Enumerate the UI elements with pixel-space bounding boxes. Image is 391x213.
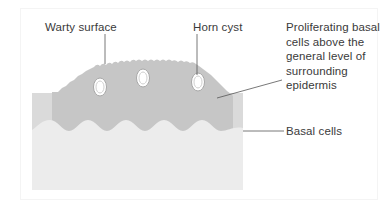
horn-cyst-2: [137, 69, 150, 87]
horn-cyst-3: [192, 73, 205, 91]
label-proliferating-basal-cells: Proliferating basal cells above the gene…: [286, 20, 380, 93]
dermis: [32, 120, 243, 190]
label-basal-cells: Basal cells: [286, 124, 342, 138]
label-warty-surface: Warty surface: [45, 20, 117, 34]
label-horn-cyst: Horn cyst: [193, 20, 242, 34]
leader-proliferating: [217, 80, 282, 98]
horn-cyst-1: [94, 78, 107, 96]
